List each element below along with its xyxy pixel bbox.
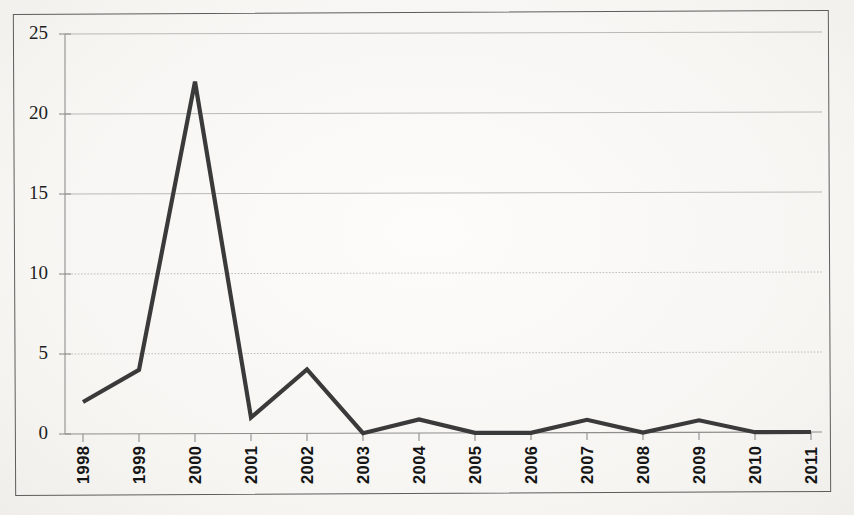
gridlines xyxy=(65,32,822,354)
y-tick-label-20: 20 xyxy=(29,102,48,123)
gridline-5 xyxy=(65,352,822,354)
x-tick-label-2006: 2006 xyxy=(522,446,540,484)
x-tick-label-2004: 2004 xyxy=(410,445,428,484)
gridline-20 xyxy=(65,112,822,114)
x-tick-label-2011: 2011 xyxy=(802,447,820,484)
x-tick-label-2008: 2008 xyxy=(634,446,652,484)
y-tick-label-5: 5 xyxy=(39,342,49,363)
x-tick-labels: 1998 1999 2000 2001 2002 2003 2004 2005 … xyxy=(74,445,820,484)
y-tick-labels: 25 20 15 10 5 0 xyxy=(29,22,48,443)
line-chart: 25 20 15 10 5 0 1998 1999 xyxy=(0,0,854,515)
x-tick-label-2002: 2002 xyxy=(298,446,316,484)
data-series-line xyxy=(83,82,811,434)
x-axis xyxy=(65,432,822,434)
chart-svg: 25 20 15 10 5 0 1998 1999 xyxy=(0,0,854,515)
y-tick-label-10: 10 xyxy=(29,262,48,283)
x-tick-label-1998: 1998 xyxy=(74,446,92,484)
gridline-15 xyxy=(65,192,822,194)
x-tick-label-2007: 2007 xyxy=(578,446,596,484)
x-tick-label-2005: 2005 xyxy=(466,446,484,484)
x-tick-label-2003: 2003 xyxy=(354,446,372,484)
y-tick-label-15: 15 xyxy=(29,182,48,203)
y-tick-label-25: 25 xyxy=(29,22,48,43)
y-tick-label-0: 0 xyxy=(39,422,49,443)
x-tick-label-2001: 2001 xyxy=(242,446,260,484)
x-tick-label-2009: 2009 xyxy=(690,446,708,484)
gridline-25 xyxy=(65,32,822,34)
x-tick-label-2000: 2000 xyxy=(186,446,204,484)
gridline-10 xyxy=(65,272,822,274)
axis-lines xyxy=(65,34,822,434)
x-tick-label-1999: 1999 xyxy=(130,446,148,484)
x-tick-label-2010: 2010 xyxy=(746,446,764,484)
